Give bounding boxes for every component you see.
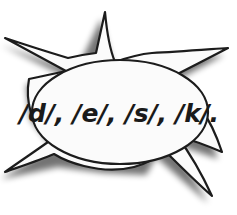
- speech-bubble-graphic: /d/, /e/, /s/, /k/.: [0, 0, 237, 215]
- phoneme-text: /d/, /e/, /s/, /k/.: [16, 99, 219, 128]
- image-canvas: /d/, /e/, /s/, /k/.: [0, 0, 237, 215]
